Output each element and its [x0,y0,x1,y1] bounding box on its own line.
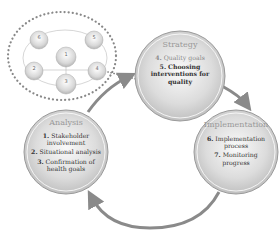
analysis-step-2: 2. Situational analysis [28,148,104,155]
mini-node-1-label: 1 [56,51,76,57]
analysis-title: Analysis [28,118,104,127]
mini-node-3 [56,74,76,94]
mini-node-4-label: 4 [87,65,107,71]
mini-node-2-label: 2 [24,65,44,71]
strategy-step-4: 4. Quality goals [143,54,217,61]
mini-node-6-label: 6 [29,34,49,40]
implementation-title: Implementation [200,120,272,129]
analysis-content: Analysis 1. Stakeholder involvement 2. S… [28,118,104,174]
mini-node-1 [56,47,76,67]
strategy-title: Strategy [143,40,217,49]
mini-node-5-label: 5 [84,34,104,40]
strategy-step-5: 5. Choosing interventions for quality [143,63,217,85]
implementation-step-6: 6. Implementation process [200,135,272,149]
implementation-step-7: 7. Monitoring progress [200,151,272,165]
strategy-content: Strategy 4. Quality goals 5. Choosing in… [143,40,217,87]
analysis-step-1: 1. Stakeholder involvement [28,132,104,146]
arrow-strategy-to-implementation [222,86,246,104]
implementation-content: Implementation 6. Implementation process… [200,120,272,168]
arrow-implementation-to-analysis [92,192,219,228]
arrow-analysis-to-strategy [88,77,128,112]
analysis-step-3: 3. Confirmation of health goals [28,158,104,172]
mini-node-3-label: 3 [56,78,76,84]
